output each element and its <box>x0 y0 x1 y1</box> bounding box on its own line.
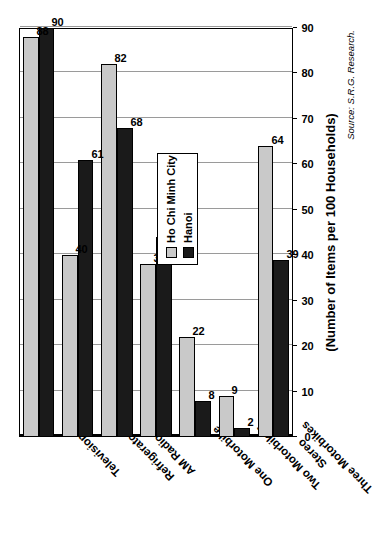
bar[interactable] <box>62 255 78 437</box>
category-label: Television <box>75 431 122 478</box>
bar[interactable] <box>273 260 289 437</box>
axis-tick-label: 30 <box>294 295 322 306</box>
chart-legend[interactable]: Ho Chi Minh CityHanoi <box>157 153 198 265</box>
bar[interactable] <box>39 28 55 437</box>
axis-tick-label: 20 <box>294 341 322 352</box>
bar-value-label: 88 <box>36 26 48 37</box>
gridline <box>20 162 292 163</box>
bar-value-label: 61 <box>91 148 103 159</box>
gridline <box>20 117 292 118</box>
gridline <box>20 71 292 72</box>
bar[interactable] <box>179 337 195 437</box>
bar[interactable] <box>219 396 235 437</box>
bar-value-label: 68 <box>130 116 142 127</box>
legend-item[interactable]: Ho Chi Minh City <box>166 155 177 258</box>
bar[interactable] <box>195 401 211 437</box>
axis-tick-label: 10 <box>294 386 322 397</box>
bar[interactable] <box>117 128 133 437</box>
axis-tick-label: 60 <box>294 159 322 170</box>
bar-value-label: 8 <box>208 389 214 400</box>
bar-value-label: 9 <box>232 385 238 396</box>
gridline <box>20 208 292 209</box>
bar-value-label: 2 <box>248 416 254 427</box>
axis-tick-label: 70 <box>294 113 322 124</box>
bar[interactable] <box>140 264 156 437</box>
legend-swatch <box>183 247 194 258</box>
legend-label: Ho Chi Minh City <box>166 155 177 243</box>
bar[interactable] <box>23 37 39 437</box>
axis-tick-label: 50 <box>294 204 322 215</box>
bar[interactable] <box>258 146 274 437</box>
bar-value-label: 64 <box>271 135 283 146</box>
bar-value-label: 39 <box>287 248 299 259</box>
bar-value-label: 82 <box>115 53 127 64</box>
legend-swatch <box>166 247 177 258</box>
legend-label: Hanoi <box>183 212 194 243</box>
axis-tick-label: 90 <box>294 23 322 34</box>
value-axis-title: (Number of Items per 100 Households) <box>323 113 338 351</box>
bar[interactable] <box>101 64 117 437</box>
bar[interactable] <box>156 237 172 437</box>
axis-tick-label: 80 <box>294 68 322 79</box>
source-note: Source: S.R.G. Research. <box>345 30 356 140</box>
legend-item[interactable]: Hanoi <box>183 212 194 258</box>
bar-value-label: 40 <box>75 244 87 255</box>
bar-value-label: 22 <box>193 326 205 337</box>
bar-value-label: 90 <box>52 17 64 28</box>
bar[interactable] <box>234 428 250 437</box>
bar[interactable] <box>78 160 94 437</box>
